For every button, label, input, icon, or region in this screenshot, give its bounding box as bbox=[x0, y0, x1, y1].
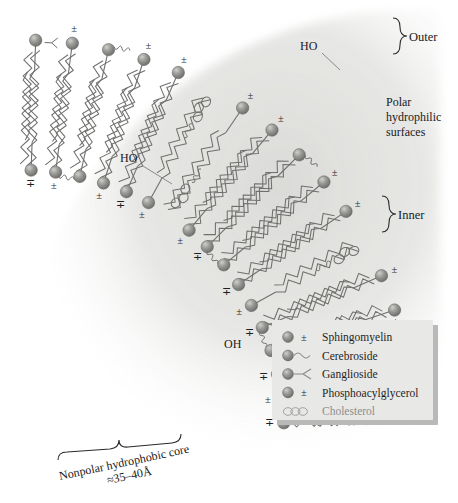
charge-inner: ± bbox=[265, 394, 271, 405]
charge-inner: ∓ bbox=[26, 178, 35, 189]
charge-outer: ± bbox=[278, 113, 284, 124]
acyl-tail-outer-a bbox=[76, 79, 102, 172]
head-group-inner bbox=[49, 166, 61, 178]
ganglioside-outer bbox=[45, 38, 58, 48]
ho-top-text: HO bbox=[300, 39, 318, 53]
acyl-tail-inner-b bbox=[50, 55, 68, 142]
charge-outer: ± bbox=[391, 264, 397, 275]
oh-inner-text: OH bbox=[224, 337, 242, 351]
charge-icon: ± bbox=[301, 332, 307, 343]
head-group-inner bbox=[142, 196, 154, 208]
charge-icon: ± bbox=[301, 387, 307, 398]
head-group-inner bbox=[74, 170, 86, 182]
charge-inner: ± bbox=[177, 235, 183, 246]
charge-inner: ± bbox=[96, 190, 102, 201]
charge-inner: ∓ bbox=[259, 371, 268, 382]
charge-inner: ∓ bbox=[222, 286, 231, 297]
head-group-icon bbox=[283, 369, 294, 380]
head-group-inner bbox=[183, 224, 195, 236]
head-group-icon bbox=[283, 332, 294, 343]
figure-canvas: ∓±±±±±∓±±±±∓±±∓±±∓∓∓±±∓ Outer Inner Pola… bbox=[0, 0, 458, 503]
charge-inner: ± bbox=[139, 209, 145, 220]
charge-outer: ± bbox=[145, 40, 151, 51]
head-group-outer bbox=[102, 43, 114, 55]
charge-outer: ± bbox=[355, 198, 361, 209]
charge-inner: ± bbox=[51, 180, 57, 191]
head-group-outer bbox=[293, 149, 305, 161]
head-group-outer bbox=[172, 66, 184, 78]
head-group-inner bbox=[120, 186, 132, 198]
charge-inner: ∓ bbox=[245, 327, 254, 338]
charge-inner: ∓ bbox=[193, 251, 202, 262]
legend-label: Phosphoacylglycerol bbox=[322, 387, 418, 400]
legend-label: Cerebroside bbox=[322, 350, 378, 362]
head-group-inner bbox=[232, 278, 244, 290]
charge-outer: ± bbox=[71, 23, 77, 34]
bilayer-diagram: ∓±±±±±∓±±±±∓±±∓±±∓∓∓±±∓ Outer Inner Pola… bbox=[0, 0, 458, 503]
head-group-outer bbox=[266, 124, 278, 136]
legend-item[interactable]: ±Phosphoacylglycerol bbox=[283, 387, 419, 400]
head-group-outer bbox=[29, 34, 41, 46]
label-oh-inner: OH bbox=[224, 337, 242, 351]
branch-arm bbox=[52, 38, 58, 43]
head-group-inner bbox=[256, 321, 268, 333]
head-group-outer bbox=[340, 205, 352, 217]
head-group-outer bbox=[66, 37, 78, 49]
polar-line-1: Polar bbox=[386, 95, 411, 109]
head-group-outer bbox=[318, 176, 330, 188]
charge-outer: ± bbox=[181, 54, 187, 65]
charge-outer: ± bbox=[248, 90, 254, 101]
head-group-inner bbox=[218, 259, 230, 271]
head-group-inner bbox=[97, 177, 109, 189]
cerebroside-outer bbox=[114, 46, 130, 51]
head-group-inner bbox=[201, 241, 213, 253]
legend-label: Sphingomyelin bbox=[322, 331, 393, 344]
polar-line-3: surfaces bbox=[386, 125, 426, 139]
head-group-icon bbox=[283, 387, 294, 398]
branch-arm bbox=[52, 43, 58, 48]
head-group-outer bbox=[138, 53, 150, 65]
charge-inner: ± bbox=[236, 306, 242, 317]
legend-label: Ganglioside bbox=[322, 368, 378, 381]
legend-label: Cholesterol bbox=[322, 405, 375, 417]
acyl-tail-outer-a bbox=[52, 73, 71, 168]
label-inner: Inner bbox=[398, 208, 425, 222]
acyl-tail-outer-b bbox=[70, 79, 95, 168]
head-group-outer bbox=[388, 304, 400, 316]
legend: ±SphingomyelinCerebrosideGanglioside±Pho… bbox=[272, 320, 438, 425]
head-group-icon bbox=[283, 350, 294, 361]
head-group-outer bbox=[236, 102, 248, 114]
head-group-inner bbox=[245, 299, 257, 311]
polar-line-2: hydrophilic bbox=[386, 110, 441, 124]
label-outer: Outer bbox=[409, 30, 438, 44]
lipid-pair: ∓ bbox=[20, 34, 58, 189]
charge-outer: ± bbox=[332, 167, 338, 178]
charge-inner: ∓ bbox=[116, 199, 125, 210]
head-group-outer bbox=[375, 269, 387, 281]
ho-left-text: HO bbox=[120, 151, 138, 165]
head-group-inner bbox=[25, 164, 37, 176]
